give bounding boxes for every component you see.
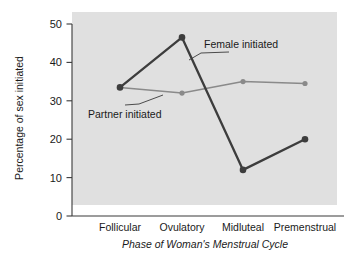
y-tick-label-50: 50 (50, 18, 62, 30)
line-chart: 0 10 20 30 40 50 Percentage of sex initi… (0, 0, 355, 263)
data-point-female-midluteal (240, 167, 247, 174)
x-tick-label-midluteal: Midluteal (222, 221, 264, 233)
data-point-female-premenstrual (302, 136, 309, 143)
y-tick-label-20: 20 (50, 133, 62, 145)
y-tick-label-30: 30 (50, 95, 62, 107)
y-axis-title: Percentage of sex initiated (13, 56, 25, 180)
y-tick-label-0: 0 (56, 210, 62, 222)
x-axis-title: Phase of Woman's Menstrual Cycle (122, 238, 288, 250)
x-tick-label-follicular: Follicular (99, 221, 142, 233)
chart-figure: 0 10 20 30 40 50 Percentage of sex initi… (0, 0, 355, 263)
x-axis-tick-labels: Follicular Ovulatory Midluteal Premenstr… (99, 221, 336, 233)
y-tick-label-40: 40 (50, 56, 62, 68)
annotation-partner-initiated: Partner initiated (88, 108, 162, 120)
y-axis-ticks (67, 24, 73, 216)
data-point-partner-ovulatory (179, 91, 184, 96)
data-point-female-follicular (117, 84, 124, 91)
data-point-partner-midluteal (240, 79, 245, 84)
y-tick-label-10: 10 (50, 172, 62, 184)
annotation-female-initiated: Female initiated (204, 38, 278, 50)
data-point-partner-premenstrual (302, 81, 307, 86)
y-axis-tick-labels: 0 10 20 30 40 50 (50, 18, 62, 222)
x-tick-label-premenstrual: Premenstrual (274, 221, 336, 233)
data-point-female-ovulatory (179, 34, 186, 41)
x-tick-label-ovulatory: Ovulatory (160, 221, 206, 233)
